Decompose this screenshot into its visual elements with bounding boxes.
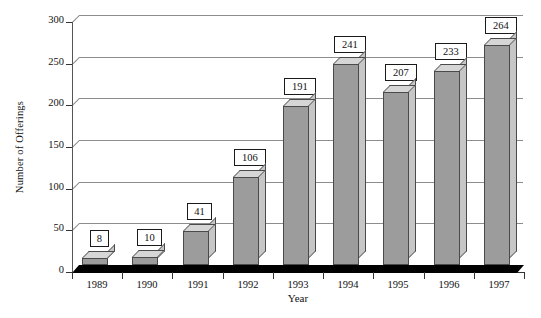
y-axis-tick-label: 250 bbox=[32, 56, 64, 67]
gridline-riser bbox=[72, 15, 80, 23]
bar-front-face bbox=[183, 231, 209, 265]
bar-1989 bbox=[82, 258, 108, 265]
x-axis-tick-label: 1991 bbox=[175, 279, 221, 290]
gridline-riser bbox=[72, 98, 80, 106]
x-axis-tick-label: 1989 bbox=[74, 279, 120, 290]
y-axis-tick-label: 300 bbox=[32, 14, 64, 25]
x-axis-tick bbox=[122, 272, 123, 279]
bar-1994 bbox=[333, 64, 359, 265]
bar-top-face bbox=[82, 251, 115, 258]
x-axis-tick-label: 1992 bbox=[225, 279, 271, 290]
x-axis-tick-label: 1995 bbox=[375, 279, 421, 290]
bar-front-face bbox=[434, 71, 460, 265]
gridline-riser bbox=[72, 223, 80, 231]
bar-side-face bbox=[409, 78, 416, 258]
x-axis-tick bbox=[323, 272, 324, 279]
x-axis-tick-label: 1993 bbox=[275, 279, 321, 290]
bar-front-face bbox=[283, 106, 309, 265]
value-label-1990: 10 bbox=[137, 229, 162, 246]
y-axis-line bbox=[72, 22, 73, 272]
bar-front-face bbox=[333, 64, 359, 265]
bar-side-face bbox=[510, 31, 517, 258]
y-axis-title: Number of Offerings bbox=[8, 11, 30, 283]
x-axis-tick bbox=[373, 272, 374, 279]
value-label-1997: 264 bbox=[485, 17, 517, 34]
bar-front-face bbox=[132, 257, 158, 265]
x-axis-tick-label: 1994 bbox=[325, 279, 371, 290]
x-axis-tick bbox=[223, 272, 224, 279]
bar-side-face bbox=[359, 50, 366, 258]
x-axis-tick bbox=[524, 272, 525, 279]
x-axis-title: Year bbox=[72, 292, 524, 304]
x-axis-tick bbox=[72, 272, 73, 279]
x-axis-tick-label: 1990 bbox=[124, 279, 170, 290]
chart-floor bbox=[72, 265, 524, 273]
bar-1990 bbox=[132, 257, 158, 265]
x-axis-tick-label: 1996 bbox=[426, 279, 472, 290]
y-axis-tick-label: 100 bbox=[32, 181, 64, 192]
bar-front-face bbox=[233, 177, 259, 265]
y-axis-tick-label: 200 bbox=[32, 97, 64, 108]
bar-1996 bbox=[434, 71, 460, 265]
x-axis-tick bbox=[424, 272, 425, 279]
bar-front-face bbox=[82, 258, 108, 265]
bar-chart: Number of Offerings 050100150200250300 8… bbox=[0, 0, 541, 318]
bar-front-face bbox=[383, 92, 409, 265]
bar-1991 bbox=[183, 231, 209, 265]
bar-1995 bbox=[383, 92, 409, 265]
value-label-1992: 106 bbox=[234, 149, 266, 166]
bar-1993 bbox=[283, 106, 309, 265]
value-label-1995: 207 bbox=[385, 64, 417, 81]
value-label-1996: 233 bbox=[435, 43, 467, 60]
gridline-riser bbox=[72, 140, 80, 148]
value-label-1989: 8 bbox=[90, 230, 109, 247]
bar-front-face bbox=[484, 45, 510, 265]
value-label-1991: 41 bbox=[187, 203, 212, 220]
y-axis-tick-label: 50 bbox=[32, 222, 64, 233]
x-axis-tick bbox=[273, 272, 274, 279]
x-axis-tick bbox=[474, 272, 475, 279]
bar-1997 bbox=[484, 45, 510, 265]
gridline bbox=[79, 15, 523, 16]
bar-side-face bbox=[460, 57, 467, 258]
x-axis-tick bbox=[172, 272, 173, 279]
value-label-1993: 191 bbox=[284, 78, 316, 95]
y-axis-tick-label: 0 bbox=[32, 264, 64, 275]
gridline-riser bbox=[72, 182, 80, 190]
bar-side-face bbox=[259, 163, 266, 258]
value-label-1994: 241 bbox=[334, 36, 366, 53]
x-axis-tick-label: 1997 bbox=[476, 279, 522, 290]
gridline-riser bbox=[72, 57, 80, 65]
bar-side-face bbox=[309, 92, 316, 258]
y-axis-tick-label: 150 bbox=[32, 139, 64, 150]
bar-1992 bbox=[233, 177, 259, 265]
